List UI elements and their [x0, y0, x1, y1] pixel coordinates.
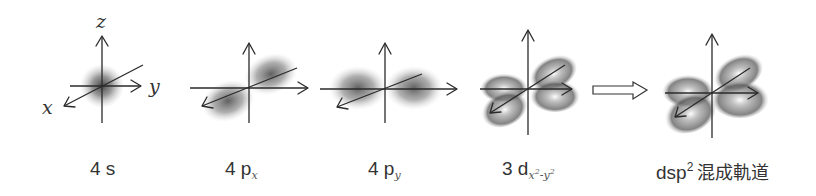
x-axis-arrowhead — [64, 97, 75, 107]
label-4py-subscript: y — [394, 169, 400, 182]
label-4px: 4 px — [225, 158, 258, 182]
label-4s-text: 4 s — [90, 158, 115, 179]
panel-4py — [320, 43, 457, 123]
panel-4s: z y x — [42, 10, 160, 123]
hybridization-arrow — [593, 82, 647, 99]
y-axis-label: y — [148, 75, 160, 97]
label-4px-main: 4 p — [225, 158, 251, 179]
label-4px-subscript: x — [251, 169, 257, 182]
label-3d-subscript: x2-y2 — [528, 169, 554, 182]
panel-dsp2 — [657, 34, 769, 142]
label-4py: 4 py — [368, 158, 401, 182]
label-hybrid-orbital-jp: 混成軌道 — [697, 162, 769, 183]
label-4py-main: 4 p — [368, 158, 394, 179]
label-3d-main: 3 d — [502, 158, 528, 179]
label-4s: 4 s — [90, 158, 115, 180]
z-axis-label: z — [95, 10, 107, 32]
label-3dx2y2: 3 dx2-y2 — [502, 158, 555, 182]
label-dsp-main: dsp — [656, 162, 687, 183]
hybrid-lobe-right — [711, 78, 769, 118]
panel-3dx2y2 — [475, 30, 583, 135]
x-axis-label: x — [42, 96, 53, 118]
label-dsp-superscript: 2 — [687, 160, 694, 174]
label-dsp2: dsp2混成軌道 — [656, 158, 769, 184]
sub-exp2: 2 — [550, 167, 555, 176]
p-lobe-left — [329, 66, 387, 110]
panel-4px — [190, 43, 308, 129]
p-lobe-right — [385, 66, 443, 110]
